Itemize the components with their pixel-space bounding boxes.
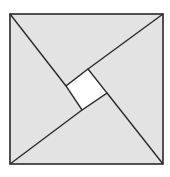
diagram-canvas — [0, 0, 170, 177]
pinwheel-square-diagram — [0, 0, 170, 177]
